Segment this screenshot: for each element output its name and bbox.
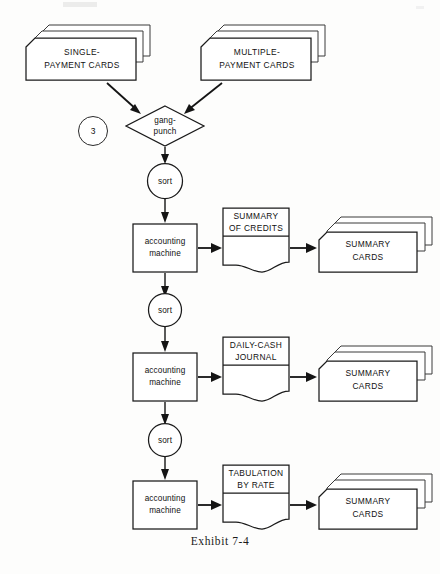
arrow-daily-cash-journal-to-summary-cards-2 bbox=[290, 372, 317, 382]
node-summary-cards-3: SUMMARY CARDS bbox=[319, 474, 432, 529]
arrow-sort-1-to-accounting-machine-1 bbox=[161, 199, 169, 223]
node-tabulation-by-rate: TABULATION BY RATE bbox=[223, 465, 289, 529]
summary-cards-2-label-line1: SUMMARY bbox=[345, 368, 390, 378]
summary-of-credits-label-line1: SUMMARY bbox=[233, 211, 278, 221]
arrow-multiple-cards-to-gang-punch bbox=[184, 83, 222, 114]
node-multiple-payment-cards: MULTIPLE- PAYMENT CARDS bbox=[201, 25, 325, 80]
daily-cash-journal-label-line1: DAILY-CASH bbox=[230, 340, 282, 350]
summary-cards-1-label-line2: CARDS bbox=[352, 252, 383, 262]
accounting-machine-1-label-line1: accounting bbox=[145, 237, 186, 246]
node-summary-cards-2: SUMMARY CARDS bbox=[319, 346, 432, 401]
multiple-payment-cards-label-line1: MULTIPLE- bbox=[234, 47, 280, 57]
arrow-gang-punch-to-sort-1 bbox=[161, 147, 169, 164]
accounting-machine-2-box bbox=[133, 353, 197, 401]
accounting-machine-2-label-line1: accounting bbox=[145, 366, 186, 375]
multiple-payment-cards-label-line2: PAYMENT CARDS bbox=[219, 60, 294, 70]
figure-caption: Exhibit 7-4 bbox=[0, 535, 440, 547]
node-daily-cash-journal: DAILY-CASH JOURNAL bbox=[223, 337, 289, 401]
node-sort-3: sort bbox=[149, 424, 182, 457]
single-payment-cards-label-line1: SINGLE- bbox=[64, 47, 100, 57]
flowchart-svg: SINGLE- PAYMENT CARDS MULTIPLE- PAYMENT … bbox=[0, 0, 440, 574]
node-accounting-machine-3: accounting machine bbox=[133, 481, 197, 529]
summary-cards-3-label-line2: CARDS bbox=[352, 509, 383, 519]
node-single-payment-cards: SINGLE- PAYMENT CARDS bbox=[26, 25, 150, 80]
arrow-accounting-machine-2-to-daily-cash-journal bbox=[198, 372, 222, 382]
arrow-accounting-machine-1-to-summary-of-credits bbox=[198, 243, 222, 253]
figure-canvas: SINGLE- PAYMENT CARDS MULTIPLE- PAYMENT … bbox=[0, 0, 440, 574]
accounting-machine-1-label-line2: machine bbox=[149, 249, 181, 258]
card-front-layer bbox=[26, 38, 136, 80]
accounting-machine-3-box bbox=[133, 481, 197, 529]
arrow-tabulation-by-rate-to-summary-cards-3 bbox=[290, 500, 317, 510]
arrow-sort-2-to-accounting-machine-2 bbox=[161, 327, 169, 352]
node-summary-cards-1: SUMMARY CARDS bbox=[319, 217, 432, 272]
gang-punch-label-line2: punch bbox=[154, 127, 177, 136]
summary-cards-3-label-line1: SUMMARY bbox=[345, 496, 390, 506]
single-payment-cards-label-line2: PAYMENT CARDS bbox=[44, 60, 119, 70]
sort-2-label: sort bbox=[158, 306, 173, 315]
arrow-summary-of-credits-to-summary-cards-1 bbox=[290, 243, 317, 253]
summary-cards-2-label-line2: CARDS bbox=[352, 381, 383, 391]
tabulation-by-rate-label-line1: TABULATION bbox=[229, 468, 284, 478]
summary-cards-1-label-line1: SUMMARY bbox=[345, 239, 390, 249]
node-accounting-machine-1: accounting machine bbox=[133, 224, 197, 272]
daily-cash-journal-label-line2: JOURNAL bbox=[235, 352, 277, 362]
gang-punch-label-line1: gang- bbox=[154, 116, 176, 125]
sort-1-label: sort bbox=[158, 177, 173, 186]
sort-3-label: sort bbox=[158, 436, 173, 445]
accounting-machine-3-label-line1: accounting bbox=[145, 494, 186, 503]
accounting-machine-2-label-line2: machine bbox=[149, 378, 181, 387]
node-accounting-machine-2: accounting machine bbox=[133, 353, 197, 401]
arrow-accounting-machine-3-to-tabulation-by-rate bbox=[198, 500, 222, 510]
card-front-layer bbox=[201, 38, 311, 80]
accounting-machine-3-label-line2: machine bbox=[149, 506, 181, 515]
arrow-single-cards-to-gang-punch bbox=[107, 83, 141, 114]
node-connector-3: 3 bbox=[79, 117, 108, 146]
arrow-accounting-machine-2-to-sort-3 bbox=[161, 402, 169, 425]
accounting-machine-1-box bbox=[133, 224, 197, 272]
node-summary-of-credits: SUMMARY OF CREDITS bbox=[223, 208, 289, 272]
node-sort-1: sort bbox=[148, 164, 183, 199]
summary-of-credits-label-line2: OF CREDITS bbox=[229, 223, 283, 233]
node-sort-2: sort bbox=[149, 294, 182, 327]
connector-3-label: 3 bbox=[91, 126, 96, 136]
tabulation-by-rate-label-line2: BY RATE bbox=[237, 480, 275, 490]
arrow-sort-3-to-accounting-machine-3 bbox=[161, 457, 169, 480]
